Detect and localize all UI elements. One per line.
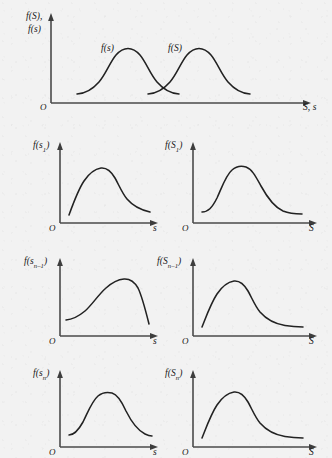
chart-svg-r2-right bbox=[166, 130, 332, 248]
x-axis-label-r4-left: s bbox=[153, 448, 157, 458]
origin-label-r2-right: O bbox=[182, 224, 189, 233]
chart-panel-r2-right: f(S1) O S bbox=[166, 130, 332, 248]
y-axis-label-top-line1: f(S), bbox=[26, 12, 43, 22]
y-axis-arrow-r3-right bbox=[190, 258, 196, 266]
curve-r4-left bbox=[69, 392, 152, 436]
chart-svg-top bbox=[0, 0, 332, 125]
chart-svg-r2-left bbox=[0, 130, 166, 248]
chart-svg-r4-right bbox=[166, 360, 332, 458]
y-axis-label-r2-right: f(S1) bbox=[165, 141, 183, 151]
chart-panel-r3-right: f(Sn–1) O S bbox=[166, 248, 332, 360]
x-axis-label-r3-right: S bbox=[309, 337, 314, 347]
curve-label-f-s: f(s) bbox=[101, 44, 114, 54]
origin-label-r2-left: O bbox=[49, 224, 56, 233]
origin-label-r4-left: O bbox=[49, 448, 56, 457]
origin-label-r3-right: O bbox=[182, 337, 189, 346]
chart-panel-r2-left: f(s1) O s bbox=[0, 130, 166, 248]
y-axis-arrow-r4-right bbox=[190, 370, 196, 378]
x-axis-label-r2-right: S bbox=[309, 224, 314, 234]
x-axis-label-r3-left: s bbox=[153, 337, 157, 347]
chart-panel-top: f(S), f(s) O S, s f(s) f(S) bbox=[0, 0, 332, 125]
curve-r4-right bbox=[202, 392, 303, 438]
y-axis-arrow-r4-left bbox=[57, 370, 63, 378]
x-axis-label-r2-left: s bbox=[153, 224, 157, 234]
figure-root: f(S), f(s) O S, s f(s) f(S) f(s1) O s bbox=[0, 0, 332, 458]
y-axis-label-r2-left: f(s1) bbox=[33, 141, 49, 151]
curve-label-f-S: f(S) bbox=[168, 44, 182, 54]
y-axis-arrow-r3-left bbox=[57, 258, 63, 266]
y-axis-arrow-r2-left bbox=[57, 142, 63, 150]
origin-label-top: O bbox=[40, 103, 47, 112]
chart-panel-r4-right: f(Sn) O S bbox=[166, 360, 332, 458]
y-axis-arrow-r2-right bbox=[190, 142, 196, 150]
chart-panel-r4-left: f(sn) O s bbox=[0, 360, 166, 458]
curve-r2-left bbox=[69, 168, 150, 215]
y-axis-arrow-top bbox=[48, 13, 54, 21]
curve-r2-right bbox=[202, 166, 302, 214]
chart-svg-r4-left bbox=[0, 360, 166, 458]
chart-svg-r3-right bbox=[166, 248, 332, 360]
chart-panel-r3-left: f(sn–1) O s bbox=[0, 248, 166, 360]
y-axis-label-r3-right: f(Sn–1) bbox=[157, 257, 181, 267]
origin-label-r3-left: O bbox=[49, 337, 56, 346]
y-axis-label-top-line2: f(s) bbox=[28, 25, 41, 35]
y-axis-label-r3-left: f(sn–1) bbox=[24, 257, 47, 267]
curve-r3-left bbox=[66, 279, 149, 324]
y-axis-label-r4-left: f(sn) bbox=[33, 369, 49, 379]
x-axis-label-top: S, s bbox=[303, 103, 317, 113]
x-axis-label-r4-right: S bbox=[309, 448, 314, 458]
y-axis-label-r4-right: f(Sn) bbox=[165, 369, 183, 379]
curve-r3-right bbox=[202, 281, 303, 327]
origin-label-r4-right: O bbox=[182, 448, 189, 457]
